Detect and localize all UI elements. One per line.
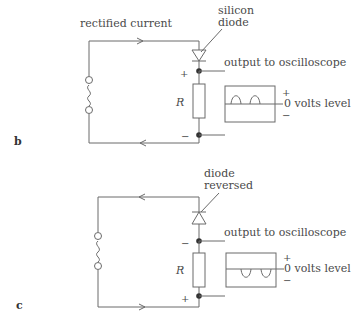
resistor-icon xyxy=(193,253,205,287)
diode-label-line2: reversed xyxy=(204,179,253,192)
diode-forward-icon xyxy=(192,50,206,71)
output-label: output to oscilloscope xyxy=(224,226,346,239)
scope-minus: − xyxy=(283,275,291,286)
resistor-icon xyxy=(193,84,205,118)
panel-label-b: b xyxy=(14,135,22,148)
diode-pointer-line xyxy=(201,29,222,52)
circuit-b: rectified current silicon diode output t… xyxy=(14,4,351,148)
ac-source-icon xyxy=(95,233,102,270)
zero-volts-label: 0 volts level xyxy=(284,97,351,110)
panel-label-c: c xyxy=(16,299,23,312)
diode-reversed-icon xyxy=(192,212,206,241)
plus-sign: + xyxy=(180,68,188,79)
rectifier-diagrams: rectified current silicon diode output t… xyxy=(0,0,351,323)
resistor-label: R xyxy=(175,264,184,277)
oscilloscope-screen xyxy=(225,86,283,122)
minus-sign: − xyxy=(181,238,189,249)
positive-pulse xyxy=(250,96,260,104)
ac-source-icon xyxy=(86,77,93,114)
wire-top-left xyxy=(98,197,199,232)
minus-sign: − xyxy=(181,131,189,142)
negative-pulse xyxy=(261,269,271,277)
negative-pulse xyxy=(241,269,251,277)
plus-sign: + xyxy=(181,293,189,304)
oscilloscope-screen xyxy=(226,253,284,287)
circuit-c: diode reversed output to oscilloscope − … xyxy=(16,167,351,312)
positive-pulse xyxy=(231,96,241,104)
resistor-label: R xyxy=(175,96,184,109)
zero-volts-label: 0 volts level xyxy=(284,262,351,275)
output-label: output to oscilloscope xyxy=(224,56,346,69)
diode-label-line2: diode xyxy=(218,16,249,29)
rectified-current-label: rectified current xyxy=(80,17,173,30)
diode-pointer-line xyxy=(201,193,219,212)
scope-minus: − xyxy=(282,110,290,121)
